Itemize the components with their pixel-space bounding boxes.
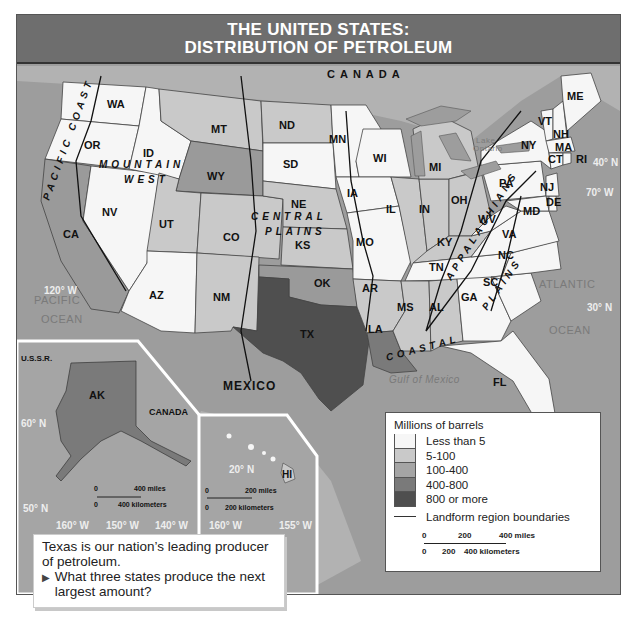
legend-boundary: Landform region boundaries: [394, 511, 592, 523]
svg-text:FL: FL: [493, 376, 507, 388]
region-west: WEST: [124, 174, 169, 185]
svg-text:KS: KS: [295, 239, 310, 251]
svg-text:KY: KY: [437, 236, 453, 248]
label-atlantic: ATLANTIC: [539, 278, 595, 290]
svg-text:NJ: NJ: [540, 181, 554, 193]
coord-140w: 140° W: [155, 520, 188, 531]
svg-text:MN: MN: [329, 133, 346, 145]
svg-text:NE: NE: [291, 198, 306, 210]
label-pacific-ocean: OCEAN: [41, 313, 83, 325]
legend-title: Millions of barrels: [394, 419, 592, 431]
svg-text:MS: MS: [397, 301, 414, 313]
coord-60n: 60° N: [21, 418, 46, 429]
svg-text:ME: ME: [567, 90, 584, 102]
legend-item: 400-800: [394, 478, 592, 493]
label-canada-inset: CANADA: [149, 407, 188, 417]
svg-text:ND: ND: [279, 119, 295, 131]
caption-box: Texas is our nation’s leading producer o…: [33, 534, 285, 608]
svg-text:0: 0: [205, 504, 209, 511]
coord-40n: 40° N: [593, 157, 618, 168]
legend-item: Less than 5: [394, 434, 592, 449]
title-line-1: THE UNITED STATES:: [17, 21, 620, 39]
coord-20n: 20° N: [229, 464, 254, 475]
svg-text:NM: NM: [213, 291, 230, 303]
svg-text:RI: RI: [576, 153, 587, 165]
label-atlantic-ocean: OCEAN: [549, 324, 591, 336]
map-frame: THE UNITED STATES: DISTRIBUTION OF PETRO…: [16, 14, 621, 595]
svg-text:400 miles: 400 miles: [134, 485, 166, 492]
svg-text:VT: VT: [538, 115, 552, 127]
svg-text:TN: TN: [429, 261, 444, 273]
label-lake-ontario-2: Ontario: [473, 144, 503, 153]
label-gulf-of-mexico: Gulf of Mexico: [389, 374, 460, 385]
svg-text:UT: UT: [159, 218, 174, 230]
svg-text:HI: HI: [282, 469, 292, 480]
svg-text:OR: OR: [84, 139, 101, 151]
legend-swatch: [394, 449, 416, 464]
svg-text:IA: IA: [347, 187, 358, 199]
svg-text:MO: MO: [356, 236, 374, 248]
svg-text:OH: OH: [451, 194, 468, 206]
svg-text:NV: NV: [102, 206, 118, 218]
svg-text:MD: MD: [523, 205, 540, 217]
triangle-bullet-icon: ▶: [42, 569, 55, 599]
state-nd: [261, 101, 333, 143]
svg-text:400 kilometers: 400 kilometers: [118, 501, 167, 508]
region-mountain: MOUNTAIN: [99, 159, 184, 170]
svg-text:0: 0: [94, 501, 98, 508]
svg-text:OK: OK: [314, 277, 331, 289]
label-mexico: MEXICO: [223, 379, 276, 393]
region-central: CENTRAL: [251, 211, 327, 222]
label-ussr: U.S.S.R.: [21, 354, 52, 363]
coord-155w: 155° W: [279, 520, 312, 531]
svg-text:WI: WI: [373, 152, 386, 164]
legend-item: 100-400: [394, 463, 592, 478]
coord-160w-hawaii: 160° W: [209, 520, 242, 531]
svg-text:CT: CT: [548, 153, 563, 165]
legend-item: 800 or more: [394, 492, 592, 507]
region-plains: PLAINS: [265, 226, 326, 237]
coord-160w: 160° W: [56, 520, 89, 531]
legend-swatch: [394, 492, 416, 507]
svg-text:IL: IL: [386, 203, 396, 215]
svg-text:CO: CO: [223, 231, 240, 243]
svg-text:MT: MT: [211, 123, 227, 135]
svg-text:AR: AR: [362, 282, 378, 294]
svg-text:MA: MA: [555, 141, 572, 153]
svg-text:WY: WY: [207, 170, 225, 182]
coord-50n: 50° N: [23, 503, 48, 514]
svg-text:TX: TX: [300, 328, 315, 340]
svg-text:MI: MI: [429, 161, 441, 173]
coord-120w: 120° W: [44, 285, 77, 296]
svg-text:AZ: AZ: [149, 289, 164, 301]
svg-text:SD: SD: [283, 158, 298, 170]
label-canada: CANADA: [327, 68, 405, 80]
svg-text:ID: ID: [143, 147, 154, 159]
legend-item: 5-100: [394, 449, 592, 464]
scale-bar: 0 200 400 miles 0 200 400 kilometers: [422, 531, 592, 571]
svg-text:AL: AL: [429, 301, 444, 313]
svg-text:GA: GA: [461, 291, 478, 303]
svg-text:0: 0: [94, 485, 98, 492]
coord-70w: 70° W: [586, 187, 614, 198]
legend-swatch: [394, 478, 416, 493]
svg-text:NY: NY: [521, 139, 537, 151]
svg-text:AK: AK: [89, 389, 105, 401]
svg-text:CA: CA: [63, 228, 79, 240]
coord-150w: 150° W: [106, 520, 139, 531]
title-line-2: DISTRIBUTION OF PETROLEUM: [17, 39, 620, 57]
caption-text: Texas is our nation’s leading producer o…: [42, 539, 276, 569]
legend: Millions of barrels Less than 5 5-100 10…: [385, 412, 601, 572]
svg-text:WA: WA: [107, 98, 125, 110]
coord-30n: 30° N: [587, 302, 612, 313]
legend-swatch: [394, 434, 416, 449]
svg-text:LA: LA: [368, 323, 383, 335]
svg-text:DE: DE: [546, 196, 561, 208]
state-ri: [563, 153, 571, 165]
svg-text:IN: IN: [419, 203, 430, 215]
svg-text:200 miles: 200 miles: [245, 487, 277, 494]
map-title: THE UNITED STATES: DISTRIBUTION OF PETRO…: [17, 15, 620, 64]
caption-question: ▶ What three states produce the next lar…: [42, 569, 276, 599]
svg-text:VA: VA: [502, 228, 517, 240]
boundary-line-icon: [394, 516, 416, 517]
